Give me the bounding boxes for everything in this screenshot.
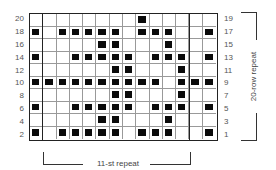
chart-cell [43,114,56,127]
row-repeat-bracket-bottom-tick [241,140,257,141]
filled-stitch [205,54,213,61]
filled-stitch [152,104,159,111]
chart-cell [96,77,109,90]
stitch-repeat-label: 11-st repeat [90,159,146,168]
chart-cell [163,39,176,52]
chart-cell [203,52,216,65]
chart-cell [123,64,136,77]
row-repeat-bracket-top-tick [241,12,257,13]
chart-cell [123,127,136,140]
chart-cell [96,102,109,115]
filled-stitch [125,54,132,61]
filled-stitch [98,116,105,123]
chart-cell [110,39,123,52]
repeat-boundary-line [42,14,43,140]
chart-cell [70,127,83,140]
filled-stitch [138,16,145,23]
filled-stitch [85,29,92,36]
chart-cell [189,14,202,27]
chart-cell [96,39,109,52]
chart-cell [83,127,96,140]
filled-stitch [112,79,119,86]
repeat-boundary-line [189,14,190,140]
chart-cell [70,14,83,27]
chart-cell [136,52,149,65]
filled-stitch [85,104,92,111]
filled-stitch [72,29,79,36]
chart-cell [96,14,109,27]
chart-cell [123,77,136,90]
chart-cell [96,64,109,77]
row-number-left: 6 [0,104,24,114]
chart-cell [43,127,56,140]
chart-cell [70,39,83,52]
chart-cell [96,52,109,65]
row-number-left: 16 [0,40,24,50]
chart-cell [136,64,149,77]
row-repeat-bracket-top-line [256,12,257,40]
row-number-right: 17 [224,27,240,37]
row-number-left: 14 [0,53,24,63]
chart-cell [150,114,163,127]
chart-cell [163,127,176,140]
stitch-repeat-bracket-left-line [43,164,83,165]
chart-cell [123,114,136,127]
chart-cell [57,77,70,90]
stitch-repeat-bracket-right-tick [190,152,191,165]
row-number-right: 9 [224,78,240,88]
row-number-right: 1 [224,130,240,140]
filled-stitch [112,91,119,98]
filled-stitch [178,91,185,98]
chart-cell [43,64,56,77]
chart-cell [203,14,216,27]
chart-cell [110,52,123,65]
chart-cell [110,89,123,102]
filled-stitch [165,116,172,123]
filled-stitch [152,129,159,137]
chart-cell [163,14,176,27]
chart-cell [150,77,163,90]
chart-cell [136,114,149,127]
filled-stitch [138,79,145,86]
filled-stitch [165,104,172,111]
row-number-right: 13 [224,53,240,63]
chart-cell [30,14,43,27]
row-number-right: 3 [224,117,240,127]
chart-cell [30,27,43,40]
chart-cell [189,64,202,77]
chart-cell [57,64,70,77]
filled-stitch [32,129,39,137]
chart-cell [150,102,163,115]
row-number-left: 4 [0,117,24,127]
filled-stitch [205,29,213,36]
chart-cell [110,64,123,77]
chart-cell [57,114,70,127]
chart-cell [150,89,163,102]
filled-stitch [98,54,105,61]
chart-cell [57,39,70,52]
row-number-right: 15 [224,40,240,50]
filled-stitch [165,54,172,61]
chart-cell [70,77,83,90]
chart-cell [70,52,83,65]
filled-stitch [72,129,79,137]
filled-stitch [205,129,213,137]
chart-cell [150,27,163,40]
filled-stitch [32,29,39,36]
filled-stitch [191,79,198,86]
chart-cell [189,114,202,127]
chart-cell [136,14,149,27]
chart-cell [163,27,176,40]
chart-cell [176,102,189,115]
chart-cell [123,52,136,65]
chart-cell [150,52,163,65]
chart-cell [150,64,163,77]
chart-cell [57,52,70,65]
chart-cell [136,102,149,115]
chart-cell [136,77,149,90]
chart-cell [30,52,43,65]
chart-cell [70,27,83,40]
filled-stitch [85,54,92,61]
filled-stitch [98,41,105,48]
chart-cell [110,102,123,115]
